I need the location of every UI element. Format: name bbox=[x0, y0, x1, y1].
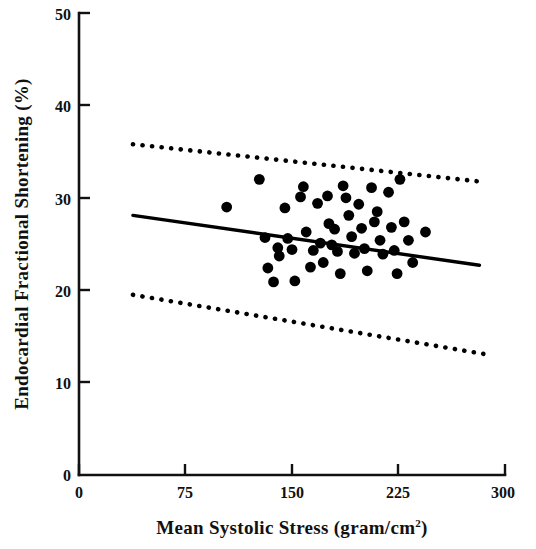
data-point bbox=[312, 198, 323, 209]
data-point bbox=[356, 223, 367, 234]
x-tick-label-300: 300 bbox=[491, 484, 515, 501]
data-point bbox=[392, 268, 403, 279]
y-tick-label-40: 40 bbox=[55, 98, 71, 115]
x-tick-label-150: 150 bbox=[280, 484, 304, 501]
data-point bbox=[268, 276, 279, 287]
y-tick-label-50: 50 bbox=[55, 6, 71, 23]
data-point bbox=[315, 238, 326, 249]
data-point bbox=[389, 245, 400, 256]
data-point bbox=[282, 233, 293, 244]
data-point bbox=[301, 227, 312, 238]
x-tick-label-75: 75 bbox=[177, 484, 193, 501]
x-tick-label-225: 225 bbox=[386, 484, 410, 501]
data-point bbox=[386, 222, 397, 233]
upper-confidence-limit bbox=[133, 144, 485, 182]
data-point bbox=[362, 265, 373, 276]
y-tick-label-30: 30 bbox=[55, 191, 71, 208]
data-point bbox=[221, 202, 232, 213]
data-point bbox=[289, 276, 300, 287]
data-point bbox=[254, 174, 265, 185]
y-tick-marks bbox=[79, 13, 90, 382]
data-point bbox=[260, 232, 271, 243]
y-axis-title: Endocardial Fractional Shortening (%) bbox=[11, 78, 33, 409]
data-point bbox=[287, 244, 298, 255]
x-tick-label-0: 0 bbox=[75, 484, 83, 501]
data-point bbox=[399, 216, 410, 227]
data-point bbox=[329, 224, 340, 235]
data-point bbox=[375, 235, 386, 246]
data-point bbox=[366, 182, 377, 193]
data-point bbox=[346, 231, 357, 242]
plot-canvas: 50 40 30 20 10 0 0 75 150 225 300 Endoca… bbox=[0, 0, 536, 549]
data-point bbox=[280, 203, 291, 214]
data-point bbox=[420, 227, 431, 238]
scatter-plot-figure: 50 40 30 20 10 0 0 75 150 225 300 Endoca… bbox=[0, 0, 536, 549]
data-point bbox=[372, 206, 383, 217]
data-point bbox=[353, 199, 364, 210]
data-point bbox=[349, 248, 360, 259]
lower-confidence-limit bbox=[133, 295, 489, 355]
regression-line-layer bbox=[133, 215, 479, 265]
data-point bbox=[262, 263, 273, 274]
data-point bbox=[298, 181, 309, 192]
data-point bbox=[295, 191, 306, 202]
data-point bbox=[322, 191, 333, 202]
data-point bbox=[343, 210, 354, 221]
y-tick-label-0: 0 bbox=[63, 467, 71, 484]
data-point bbox=[341, 192, 352, 203]
y-tick-label-20: 20 bbox=[55, 283, 71, 300]
data-point bbox=[407, 257, 418, 268]
regression-line bbox=[133, 215, 479, 265]
data-point bbox=[274, 251, 285, 262]
data-point bbox=[305, 262, 316, 273]
data-point bbox=[318, 257, 329, 268]
data-point bbox=[369, 216, 380, 227]
x-tick-marks bbox=[79, 464, 505, 475]
data-point bbox=[377, 249, 388, 260]
data-points-layer bbox=[221, 174, 431, 287]
data-point bbox=[335, 268, 346, 279]
data-point bbox=[383, 187, 394, 198]
data-point bbox=[338, 180, 349, 191]
x-axis-title-main: Mean Systolic Stress (gram/cm bbox=[156, 517, 415, 539]
data-point bbox=[395, 174, 406, 185]
y-tick-label-10: 10 bbox=[55, 375, 71, 392]
x-axis-title: Mean Systolic Stress (gram/cm2) bbox=[156, 517, 427, 539]
x-tick-labels: 0 75 150 225 300 bbox=[75, 484, 515, 501]
axes-group bbox=[79, 13, 505, 475]
x-axis-title-suffix: ) bbox=[421, 517, 428, 539]
data-point bbox=[359, 243, 370, 254]
data-point bbox=[332, 246, 343, 257]
data-point bbox=[403, 235, 414, 246]
y-tick-labels: 50 40 30 20 10 0 bbox=[55, 6, 71, 484]
